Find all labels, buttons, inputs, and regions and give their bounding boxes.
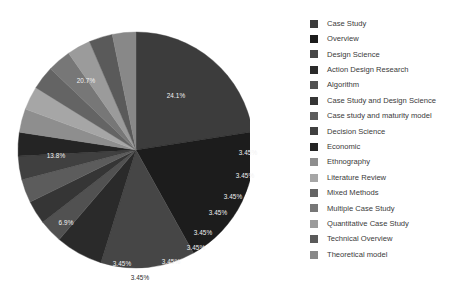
legend-item[interactable]: Case study and maturity model (310, 108, 460, 123)
legend-item-label: Algorithm (327, 81, 359, 89)
legend-item-label: Overview (327, 35, 359, 43)
legend-swatch-icon (310, 35, 318, 43)
legend-item[interactable]: Overview (310, 31, 460, 46)
legend-swatch-icon (310, 66, 318, 74)
legend-item[interactable]: Mixed Methods (310, 185, 460, 200)
legend-item[interactable]: Decision Science (310, 124, 460, 139)
legend-item[interactable]: Literature Review (310, 170, 460, 185)
legend-item-label: Action Design Research (327, 66, 408, 74)
legend-item[interactable]: Technical Overview (310, 231, 460, 246)
legend-swatch-icon (310, 81, 318, 89)
legend-item[interactable]: Action Design Research (310, 62, 460, 77)
legend-swatch-icon (310, 204, 318, 212)
legend-swatch-icon (310, 235, 318, 243)
legend-swatch-icon (310, 189, 318, 197)
legend-item-label: Economic (327, 143, 360, 151)
legend-item-label: Literature Review (327, 174, 386, 182)
legend-item[interactable]: Economic (310, 139, 460, 154)
legend-swatch-icon (310, 143, 318, 151)
legend-item[interactable]: Quantitative Case Study (310, 216, 460, 231)
legend-item-label: Theoretical model (327, 251, 387, 259)
legend-item-label: Ethnography (327, 158, 370, 166)
legend-item-label: Case Study (327, 20, 366, 28)
pie-plot-area: 24.1%20.7%13.8%6.9%3.45%3.45%3.45%3.45%3… (0, 0, 250, 299)
legend-item[interactable]: Ethnography (310, 155, 460, 170)
legend-item-label: Quantitative Case Study (327, 220, 409, 228)
legend-item[interactable]: Theoretical model (310, 247, 460, 262)
legend-item-label: Case study and maturity model (327, 112, 432, 120)
legend-swatch-icon (310, 220, 318, 228)
legend-item-label: Decision Science (327, 128, 385, 136)
legend-swatch-icon (310, 251, 318, 259)
legend-item-label: Design Science (327, 51, 380, 59)
legend-item-label: Multiple Case Study (327, 205, 395, 213)
legend-item[interactable]: Algorithm (310, 78, 460, 93)
pie-svg (0, 0, 250, 299)
legend-swatch-icon (310, 112, 318, 120)
legend-item[interactable]: Multiple Case Study (310, 201, 460, 216)
pie-chart-figure: 24.1%20.7%13.8%6.9%3.45%3.45%3.45%3.45%3… (0, 0, 460, 299)
legend-swatch-icon (310, 174, 318, 182)
legend-item[interactable]: Design Science (310, 47, 460, 62)
legend-swatch-icon (310, 20, 318, 28)
legend-item[interactable]: Case Study and Design Science (310, 93, 460, 108)
legend-swatch-icon (310, 97, 318, 105)
legend-item[interactable]: Case Study (310, 16, 460, 31)
legend-swatch-icon (310, 158, 318, 166)
chart-legend: Case StudyOverviewDesign ScienceAction D… (310, 16, 460, 262)
legend-swatch-icon (310, 127, 318, 135)
legend-item-label: Case Study and Design Science (327, 97, 436, 105)
legend-item-label: Technical Overview (327, 235, 392, 243)
legend-item-label: Mixed Methods (327, 189, 379, 197)
legend-swatch-icon (310, 50, 318, 58)
pie-slice[interactable] (136, 32, 250, 150)
